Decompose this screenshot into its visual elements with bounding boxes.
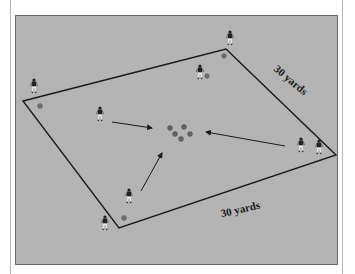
arrow-bottom <box>141 153 162 191</box>
right-side-label: 30 yards <box>272 62 311 97</box>
center-cone <box>173 132 178 137</box>
corner-cone <box>38 104 43 109</box>
player <box>96 106 103 121</box>
player <box>297 137 304 152</box>
center-cone <box>188 132 193 137</box>
corner-cone <box>122 216 127 221</box>
player <box>30 78 37 93</box>
center-cone <box>179 137 184 142</box>
player <box>196 64 203 79</box>
ball <box>205 74 209 78</box>
corner-cone <box>222 54 227 59</box>
player <box>101 215 108 230</box>
center-cone <box>168 126 173 131</box>
bottom-side-label: 30 yards <box>219 198 261 219</box>
arrow-left <box>112 122 152 128</box>
drill-diagram: 30 yards 30 yards <box>0 0 355 274</box>
arrow-right <box>206 132 285 146</box>
center-cone <box>182 125 187 130</box>
player <box>125 188 132 203</box>
player <box>226 30 233 45</box>
